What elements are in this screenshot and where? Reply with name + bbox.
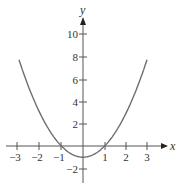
svg-text:10: 10: [67, 28, 79, 40]
y-tick-labels: 10 8 6 4 2 −2: [66, 28, 78, 175]
svg-text:8: 8: [73, 51, 79, 63]
svg-text:1: 1: [102, 151, 108, 163]
svg-text:2: 2: [73, 118, 79, 130]
y-axis-arrow-icon: [80, 17, 86, 25]
parabola-chart: x y −3 −2 −1 1 2 3 10 8 6 4 2 −2: [0, 0, 178, 195]
svg-text:−1: −1: [53, 151, 65, 163]
svg-text:−2: −2: [31, 151, 43, 163]
svg-text:4: 4: [73, 96, 79, 108]
svg-text:6: 6: [73, 74, 79, 86]
svg-text:−2: −2: [66, 163, 78, 175]
x-axis-arrow-icon: [161, 143, 168, 149]
svg-text:−3: −3: [9, 151, 21, 163]
svg-text:2: 2: [123, 151, 129, 163]
x-axis-label: x: [169, 139, 176, 153]
y-axis-label: y: [79, 3, 86, 17]
svg-text:3: 3: [144, 151, 150, 163]
